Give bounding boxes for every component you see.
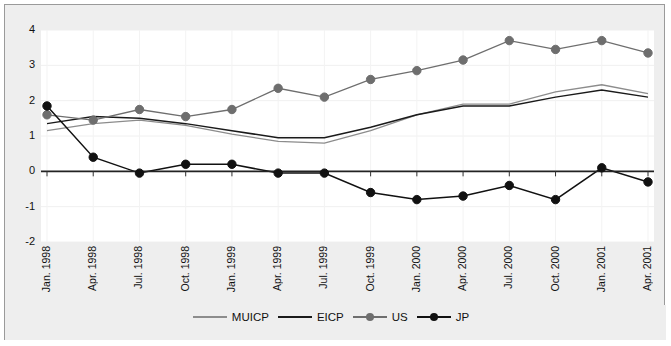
- data-point-jp: [228, 160, 236, 168]
- data-point-us: [413, 66, 421, 74]
- figure-bottom-strip: [5, 328, 664, 340]
- data-point-us: [228, 105, 236, 113]
- legend-label: US: [392, 311, 408, 323]
- x-axis-tick-label: Jan. 1999: [226, 246, 236, 292]
- legend-label: EICP: [317, 311, 344, 323]
- legend-item-us[interactable]: US: [353, 311, 417, 323]
- chart-svg: [41, 30, 654, 242]
- legend-swatch-muicp-icon: [193, 311, 227, 323]
- y-axis-tick-label: 3: [13, 59, 35, 70]
- x-axis-tick-label: Apr. 2000: [457, 246, 467, 291]
- chart-figure: -2-101234 Jan. 1998Apr. 1998Jul. 1998Oct…: [4, 4, 665, 340]
- legend-label: MUICP: [232, 311, 269, 323]
- data-point-us: [181, 112, 189, 120]
- y-axis-tick-label: 0: [13, 165, 35, 176]
- y-axis-tick-label: -1: [13, 201, 35, 212]
- x-axis-tick-label: Jan. 1998: [41, 246, 51, 292]
- data-point-us: [43, 111, 51, 119]
- x-axis-tick-label: Oct. 2000: [550, 246, 560, 292]
- legend-item-muicp[interactable]: MUICP: [193, 311, 278, 323]
- series-line-muicp: [47, 85, 648, 143]
- data-point-jp: [505, 181, 513, 189]
- x-axis-tick-label: Jan. 2001: [596, 246, 606, 292]
- legend-swatch-jp-icon: [417, 311, 451, 323]
- data-point-jp: [89, 153, 97, 161]
- data-point-us: [598, 36, 606, 44]
- y-axis-tick-label: 2: [13, 95, 35, 106]
- y-axis-tick-label: 4: [13, 24, 35, 35]
- y-axis-tick-label: 1: [13, 130, 35, 141]
- legend-label: JP: [456, 311, 469, 323]
- legend-item-jp[interactable]: JP: [417, 311, 478, 323]
- data-point-jp: [43, 102, 51, 110]
- data-point-us: [366, 75, 374, 83]
- legend-items: MUICPEICPUSJP: [5, 311, 666, 323]
- x-axis-tick-label: Jul. 1998: [133, 246, 143, 289]
- data-point-us: [320, 93, 328, 101]
- legend-swatch-us-icon: [353, 311, 387, 323]
- data-point-jp: [551, 195, 559, 203]
- x-axis-tick-label: Oct. 1999: [365, 246, 375, 292]
- data-point-jp: [366, 188, 374, 196]
- data-point-jp: [320, 169, 328, 177]
- x-axis-tick-label: Oct. 1998: [180, 246, 190, 292]
- data-point-us: [644, 49, 652, 57]
- data-point-us: [551, 45, 559, 53]
- x-axis-tick-label: Apr. 2001: [642, 246, 652, 291]
- data-point-jp: [181, 160, 189, 168]
- data-point-us: [459, 56, 467, 64]
- data-point-jp: [598, 164, 606, 172]
- data-point-us: [89, 116, 97, 124]
- data-point-jp: [644, 178, 652, 186]
- data-point-jp: [459, 192, 467, 200]
- x-axis-tick-label: Jul. 1999: [318, 246, 328, 289]
- y-axis-tick-label: -2: [13, 236, 35, 247]
- plot-area: [41, 30, 654, 242]
- data-point-jp: [135, 169, 143, 177]
- data-point-us: [135, 105, 143, 113]
- data-point-us: [505, 36, 513, 44]
- data-point-jp: [274, 169, 282, 177]
- series-line-eicp: [47, 90, 648, 138]
- legend-swatch-eicp-icon: [278, 311, 312, 323]
- x-axis-tick-label: Jul. 2000: [503, 246, 513, 289]
- x-axis-tick-label: Jan. 2000: [411, 246, 421, 292]
- data-point-jp: [413, 195, 421, 203]
- x-axis-tick-label: Apr. 1999: [272, 246, 282, 291]
- x-axis-tick-label: Apr. 1998: [87, 246, 97, 291]
- legend-item-eicp[interactable]: EICP: [278, 311, 353, 323]
- data-point-us: [274, 84, 282, 92]
